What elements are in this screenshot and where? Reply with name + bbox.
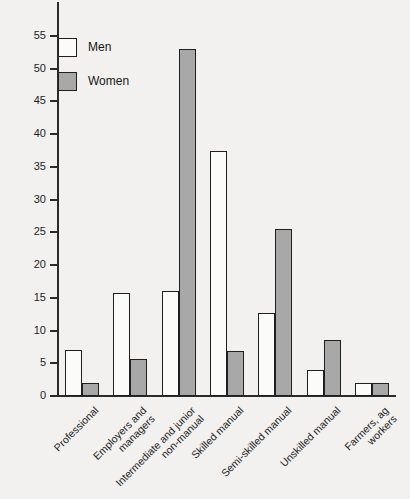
y-tick-label: 10 [6,325,46,336]
bar-men [65,350,82,396]
y-tick-label: 0 [6,390,46,401]
y-tick-label: 15 [6,292,46,303]
y-tick-label: 55 [6,30,46,41]
bar-chart: 0510152025303540455055 ProfessionalEmplo… [0,0,410,499]
y-tick-label: 50 [6,63,46,74]
legend-label: Women [88,74,129,88]
y-tick-label: 25 [6,226,46,237]
y-tick-mark [50,35,58,37]
y-tick-mark [50,330,58,332]
y-tick-label: 40 [6,128,46,139]
y-tick-mark [50,297,58,299]
legend-swatch-women [58,72,77,91]
x-axis-label: Semi-skilled manual [193,404,293,499]
y-tick-mark [50,362,58,364]
y-tick-mark [50,68,58,70]
x-axis-label: Farmers, ag workers [290,404,399,499]
bar-women [275,229,292,396]
chart-legend: MenWomen [58,36,208,104]
bar-men [355,383,372,396]
legend-swatch-men [58,38,77,57]
bar-men [210,151,227,396]
y-tick-mark [50,231,58,233]
bar-women [82,383,99,396]
bar-women [324,340,341,396]
legend-item: Men [58,36,208,58]
legend-label: Men [88,40,111,54]
bar-women [130,359,147,396]
y-tick-mark [50,395,58,397]
y-tick-label: 30 [6,194,46,205]
bar-men [113,293,130,396]
bar-men [258,313,275,396]
bar-women [372,383,389,396]
y-tick-mark [50,100,58,102]
y-tick-mark [50,133,58,135]
legend-item: Women [58,70,208,92]
y-tick-label: 45 [6,95,46,106]
bar-men [307,370,324,396]
y-tick-mark [50,199,58,201]
y-tick-mark [50,264,58,266]
y-tick-label: 20 [6,259,46,270]
y-tick-label: 35 [6,161,46,172]
y-tick-label: 5 [6,357,46,368]
bar-women [227,351,244,396]
y-tick-mark [50,166,58,168]
bar-men [162,291,179,396]
